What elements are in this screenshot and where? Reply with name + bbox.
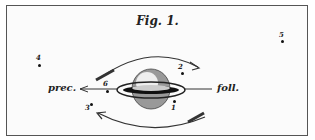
arrowhead-icon <box>190 62 199 70</box>
satellite-dot-2 <box>181 72 184 75</box>
satellite-dot-3 <box>90 103 93 106</box>
satellite-dot-6 <box>106 90 109 93</box>
satellite-label-6: 6 <box>103 79 108 88</box>
satellite-label-4: 4 <box>36 53 41 62</box>
label-preceding: prec. <box>48 82 76 93</box>
satellite-dot-4 <box>38 64 41 67</box>
label-following: foll. <box>217 82 239 93</box>
arrowhead-icon <box>97 112 106 119</box>
satellite-label-2: 2 <box>178 62 183 71</box>
satellite-label-5: 5 <box>279 30 284 39</box>
satellite-label-1: 1 <box>171 103 176 112</box>
saturn-diagram <box>0 0 315 140</box>
satellite-dot-1 <box>173 100 176 103</box>
satellite-dot-5 <box>281 40 284 43</box>
